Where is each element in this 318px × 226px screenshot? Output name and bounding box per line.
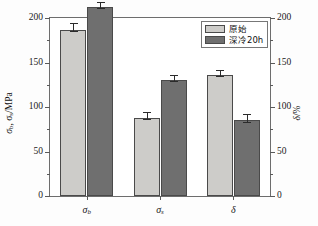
y-axis-left-tick-label: 0 [38, 191, 43, 201]
y-axis-right-tick-label: 150 [277, 58, 291, 68]
y-axis-right-minor-tick [270, 129, 273, 130]
y-axis-left-tick [45, 18, 50, 19]
legend-item: 深冷20h [205, 35, 263, 45]
error-bar-cap-bottom [216, 76, 224, 77]
y-axis-left-minor-tick [47, 129, 50, 130]
y-axis-right-tick [270, 18, 275, 19]
y-axis-left-tick [45, 196, 50, 197]
legend-label-cryo: 深冷20h [229, 36, 263, 45]
y-axis-right-tick [270, 107, 275, 108]
x-axis-tick-label: σs [156, 205, 164, 218]
legend-item: 原始 [205, 24, 263, 34]
bar [134, 118, 160, 196]
error-bar-cap-bottom [97, 8, 105, 9]
bar [161, 80, 187, 196]
error-bar-cap-top [70, 23, 78, 24]
y-axis-left-title-units: /MPa [4, 92, 14, 113]
x-axis-tick [87, 196, 88, 200]
error-bar-cap-top [243, 114, 251, 115]
y-axis-right-minor-tick [270, 40, 273, 41]
y-axis-left-title: σb, σs/MPa [4, 92, 15, 133]
y-axis-left-tick-label: 50 [34, 147, 44, 157]
y-axis-right-title: δ/% [292, 106, 302, 121]
bar [207, 75, 233, 196]
y-axis-left-tick [45, 107, 50, 108]
error-bar-cap-bottom [70, 31, 78, 32]
legend-swatch-original [205, 25, 225, 33]
delta-symbol: δ [292, 116, 302, 120]
y-axis-left-tick-label: 150 [29, 58, 43, 68]
sigma-b-subscript: b [7, 126, 15, 130]
legend-swatch-cryo [205, 36, 225, 44]
chart-legend: 原始 深冷20h [201, 21, 268, 48]
x-axis-tick-label: δ [231, 205, 236, 215]
y-axis-left-tick [45, 152, 50, 153]
chart-figure: σb, σs/MPa δ/% 050100150200050100150200σ… [0, 0, 318, 226]
y-axis-right-minor-tick [270, 85, 273, 86]
y-axis-left-tick-label: 200 [29, 13, 43, 23]
sigma-s-subscript: s [7, 113, 15, 116]
y-axis-right-tick-label: 200 [277, 13, 291, 23]
y-axis-right-tick-label: 0 [277, 191, 282, 201]
x-axis-tick-label: σb [82, 205, 90, 218]
error-bar-cap-top [97, 2, 105, 3]
y-axis-right-title-units: /% [292, 106, 302, 117]
y-axis-left-title-mid: , σ [4, 116, 14, 126]
y-axis-right-tick-label: 100 [277, 102, 291, 112]
y-axis-right-tick [270, 152, 275, 153]
y-axis-right-tick-label: 50 [277, 147, 287, 157]
error-bar-cap-top [170, 75, 178, 76]
y-axis-left-minor-tick [47, 85, 50, 86]
error-bar-cap-bottom [170, 81, 178, 82]
y-axis-left-minor-tick [47, 40, 50, 41]
bar [234, 120, 260, 196]
error-bar-cap-top [216, 70, 224, 71]
x-axis-tick [160, 196, 161, 200]
y-axis-right-tick [270, 63, 275, 64]
error-bar-cap-bottom [243, 122, 251, 123]
bar [87, 7, 113, 196]
y-axis-left-tick-label: 100 [29, 102, 43, 112]
y-axis-right-minor-tick [270, 174, 273, 175]
legend-label-original: 原始 [229, 25, 247, 34]
y-axis-left-tick [45, 63, 50, 64]
error-bar-cap-bottom [143, 119, 151, 120]
sigma-b-symbol: σ [4, 129, 14, 134]
error-bar-cap-top [143, 112, 151, 113]
x-axis-tick [233, 196, 234, 200]
y-axis-left-minor-tick [47, 174, 50, 175]
y-axis-right-tick [270, 196, 275, 197]
bar [60, 30, 86, 196]
